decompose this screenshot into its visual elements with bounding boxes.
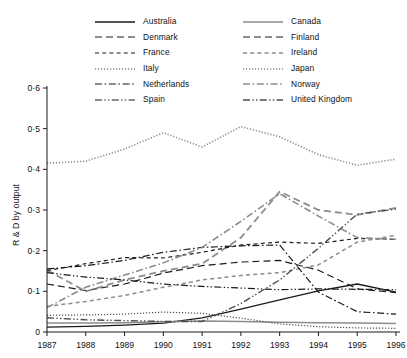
axis-labels-layer: 00·10·20·30·40·50·6198719881989199019911… xyxy=(11,83,406,350)
x-tick-label-4: 1991 xyxy=(193,340,212,350)
series-line-canada xyxy=(47,321,396,323)
x-tick-label-8: 1995 xyxy=(348,340,367,350)
x-tick-label-5: 1992 xyxy=(231,340,250,350)
y-tick-label-2: 0·2 xyxy=(28,246,41,256)
x-tick-label-2: 1989 xyxy=(115,340,134,350)
series-line-ireland xyxy=(47,235,396,306)
y-tick-label-5: 0·5 xyxy=(28,124,41,134)
x-tick-label-1: 1988 xyxy=(76,340,95,350)
y-tick-label-3: 0·3 xyxy=(28,205,41,215)
x-tick-label-0: 1987 xyxy=(37,340,56,350)
y-tick-label-4: 0·4 xyxy=(28,164,41,174)
rd-by-output-line-chart: AustraliaDenmarkFranceItalyNetherlandsSp… xyxy=(0,0,407,358)
series-line-japan xyxy=(47,127,396,166)
series-line-netherlands xyxy=(47,245,396,314)
axes-layer xyxy=(43,86,400,336)
x-tick-label-6: 1993 xyxy=(270,340,289,350)
x-tick-label-9: 1996 xyxy=(386,340,405,350)
y-tick-label-6: 0·6 xyxy=(28,83,41,93)
y-axis-title: R & D by output xyxy=(11,183,21,246)
y-tick-label-0: 0 xyxy=(35,327,40,337)
plot-area: 00·10·20·30·40·50·6198719881989199019911… xyxy=(0,0,407,358)
series-layer xyxy=(47,127,396,329)
y-tick-label-1: 0·1 xyxy=(28,286,41,296)
series-line-france xyxy=(47,238,396,270)
x-tick-label-7: 1994 xyxy=(309,340,328,350)
plot-svg: 00·10·20·30·40·50·6198719881989199019911… xyxy=(0,0,407,358)
x-tick-label-3: 1990 xyxy=(154,340,173,350)
series-line-finland xyxy=(47,192,396,292)
